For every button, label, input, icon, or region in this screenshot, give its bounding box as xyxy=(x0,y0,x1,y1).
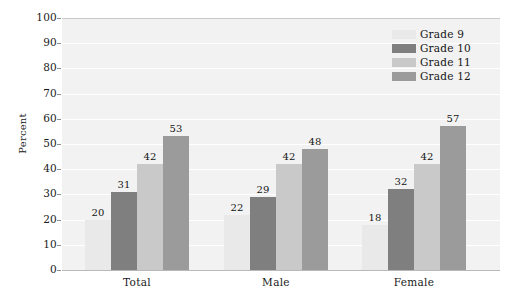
y-axis-tick-mark xyxy=(57,18,61,19)
gridline xyxy=(62,18,500,19)
grouped-bar-chart: Percent 0102030405060708090100 203142532… xyxy=(0,0,516,306)
bar: 42 xyxy=(137,164,163,270)
y-axis-tick-mark xyxy=(57,220,61,221)
bar: 53 xyxy=(163,136,189,270)
bar: 48 xyxy=(302,149,328,270)
legend-item: Grade 10 xyxy=(392,41,504,55)
y-axis-tick-mark xyxy=(57,43,61,44)
legend-item: Grade 9 xyxy=(392,27,504,41)
legend-item-label: Grade 10 xyxy=(420,42,471,54)
bar-value-label: 48 xyxy=(308,136,321,147)
legend-swatch-icon xyxy=(392,30,416,39)
y-axis-tick-mark xyxy=(57,119,61,120)
bar-value-label: 31 xyxy=(117,179,130,190)
y-axis-tick-mark xyxy=(57,194,61,195)
bar-value-label: 32 xyxy=(394,176,407,187)
y-axis-tick-mark xyxy=(57,270,61,271)
legend-swatch-icon xyxy=(392,58,416,67)
bar-value-label: 42 xyxy=(143,151,156,162)
gridline xyxy=(62,94,500,95)
legend-item-label: Grade 9 xyxy=(420,28,464,40)
y-axis-tick-mark xyxy=(57,68,61,69)
bar-value-label: 53 xyxy=(169,123,182,134)
bar-value-label: 42 xyxy=(282,151,295,162)
x-axis-tick-label: Male xyxy=(216,276,336,288)
y-axis-tick-mark xyxy=(57,169,61,170)
bar-value-label: 57 xyxy=(446,113,459,124)
bar: 42 xyxy=(414,164,440,270)
legend-swatch-icon xyxy=(392,72,416,81)
legend-item: Grade 11 xyxy=(392,55,504,69)
y-axis-tick-mark xyxy=(57,94,61,95)
y-axis-tick-marks xyxy=(0,18,62,270)
bar: 31 xyxy=(111,192,137,270)
legend-item-label: Grade 12 xyxy=(420,70,471,82)
bar: 42 xyxy=(276,164,302,270)
bar-value-label: 42 xyxy=(420,151,433,162)
chart-legend: Grade 9Grade 10Grade 11Grade 12 xyxy=(392,27,504,83)
bar-value-label: 29 xyxy=(256,184,269,195)
bar: 22 xyxy=(224,215,250,270)
legend-item-label: Grade 11 xyxy=(420,56,471,68)
bar-value-label: 18 xyxy=(368,212,381,223)
bar: 57 xyxy=(440,126,466,270)
x-axis-tick-label: Total xyxy=(77,276,197,288)
legend-swatch-icon xyxy=(392,44,416,53)
legend-item: Grade 12 xyxy=(392,69,504,83)
y-axis-tick-mark xyxy=(57,144,61,145)
bar-value-label: 20 xyxy=(91,207,104,218)
bar: 32 xyxy=(388,189,414,270)
bar-value-label: 22 xyxy=(230,202,243,213)
y-axis-tick-mark xyxy=(57,245,61,246)
bar: 18 xyxy=(362,225,388,270)
bar: 20 xyxy=(85,220,111,270)
gridline xyxy=(62,144,500,145)
bar: 29 xyxy=(250,197,276,270)
gridline xyxy=(62,270,500,271)
x-axis-tick-label: Female xyxy=(354,276,474,288)
gridline xyxy=(62,119,500,120)
